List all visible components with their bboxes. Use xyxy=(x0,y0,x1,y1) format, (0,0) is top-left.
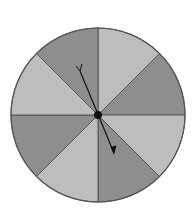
spinner-pivot xyxy=(94,111,102,119)
spinner-diagram xyxy=(0,0,195,215)
